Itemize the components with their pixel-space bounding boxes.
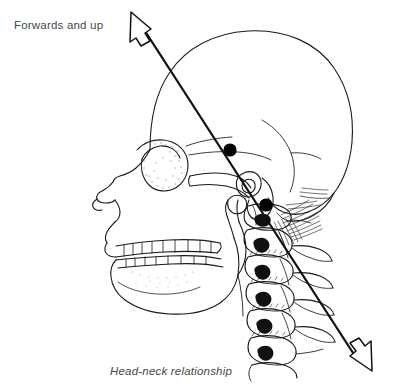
mandible-teeth [116,256,223,268]
cervical-pivot-marker [259,198,272,211]
neck-muscle-hatching [274,188,328,246]
vertebra-c7 [249,363,297,381]
occipital-bone [268,193,334,221]
vertebra-c5 [247,304,335,342]
skull-cervical-spine-illustration [0,0,410,392]
direction-label: Forwards and up [14,19,103,31]
arrow-up-left-icon [130,12,151,46]
atlanto-occipital-joint-marker [223,143,236,156]
maxilla-teeth [116,240,221,257]
direction-axis-line [143,28,355,356]
head-neck-relationship-figure: Forwards and up Head-neck relationship [0,0,410,392]
mandible-shading [131,271,194,288]
figure-caption: Head-neck relationship [110,365,232,377]
arrow-down-right-icon [350,338,372,371]
vertebra-c4 [246,277,334,315]
anterior-neck-outline [238,275,243,316]
orbit [137,140,188,191]
vertebra-c6 [248,331,323,365]
orbit-shading [143,142,183,189]
